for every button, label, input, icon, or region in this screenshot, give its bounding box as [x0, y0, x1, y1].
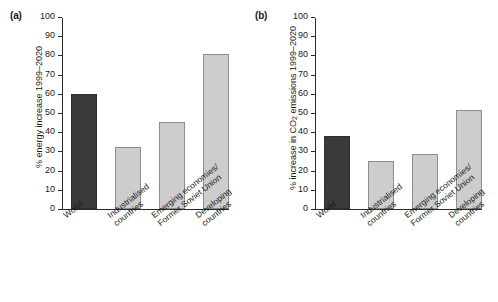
y-tick-label-30: 30: [45, 145, 55, 156]
chart-panel-b: (b) % increase in CO2 emissions 1999–202…: [249, 0, 498, 302]
y-tick-80: 80: [58, 55, 62, 56]
y-tick-0: 0: [311, 209, 315, 210]
y-tick-label-90: 90: [45, 30, 55, 41]
panel-label-a: (a): [10, 10, 22, 21]
y-tick-label-40: 40: [298, 126, 308, 137]
y-tick-label-50: 50: [45, 107, 55, 118]
y-tick-label-100: 100: [40, 11, 55, 22]
y-tick-label-50: 50: [298, 107, 308, 118]
y-tick-80: 80: [311, 55, 315, 56]
y-tick-10: 10: [311, 190, 315, 191]
y-tick-60: 60: [58, 94, 62, 95]
y-tick-30: 30: [58, 151, 62, 152]
bar[interactable]: [71, 94, 97, 209]
y-tick-label-80: 80: [298, 49, 308, 60]
y-tick-label-10: 10: [45, 184, 55, 195]
y-tick-label-10: 10: [298, 184, 308, 195]
y-tick-90: 90: [58, 36, 62, 37]
bar[interactable]: [324, 136, 350, 209]
y-tick-label-40: 40: [45, 126, 55, 137]
y-tick-40: 40: [58, 132, 62, 133]
y-tick-label-20: 20: [45, 165, 55, 176]
x-axis-categories-a: WorldIndustrialisedcountriesEmerging eco…: [0, 211, 249, 301]
y-tick-label-70: 70: [45, 69, 55, 80]
y-tick-70: 70: [58, 75, 62, 76]
y-tick-0: 0: [58, 209, 62, 210]
y-tick-label-60: 60: [298, 88, 308, 99]
y-tick-label-20: 20: [298, 165, 308, 176]
y-tick-40: 40: [311, 132, 315, 133]
y-tick-50: 50: [58, 113, 62, 114]
y-tick-70: 70: [311, 75, 315, 76]
y-tick-20: 20: [311, 171, 315, 172]
y-tick-50: 50: [311, 113, 315, 114]
y-axis-title-b-pre: % increase in CO: [288, 120, 298, 190]
y-tick-30: 30: [311, 151, 315, 152]
y-tick-20: 20: [58, 171, 62, 172]
y-tick-label-90: 90: [298, 30, 308, 41]
y-tick-label-100: 100: [293, 11, 308, 22]
chart-panel-a: (a) % energy increase 1999–2020 01020304…: [0, 0, 249, 302]
y-tick-100: 100: [58, 17, 62, 18]
figure-root: (a) % energy increase 1999–2020 01020304…: [0, 0, 498, 302]
y-tick-label-60: 60: [45, 88, 55, 99]
y-tick-100: 100: [311, 17, 315, 18]
y-tick-90: 90: [311, 36, 315, 37]
y-axis-title-b-post: emissions 1999–2020: [288, 26, 298, 116]
x-axis-categories-b: WorldIndustrialisedcountriesEmerging eco…: [249, 211, 498, 301]
y-tick-label-30: 30: [298, 145, 308, 156]
y-tick-label-70: 70: [298, 69, 308, 80]
panel-label-b: (b): [255, 10, 267, 21]
y-axis-title-b-subscript: 2: [291, 116, 298, 120]
y-axis-title-a: % energy increase 1999–2020: [34, 17, 44, 197]
y-tick-label-80: 80: [45, 49, 55, 60]
y-tick-10: 10: [58, 190, 62, 191]
y-tick-60: 60: [311, 94, 315, 95]
